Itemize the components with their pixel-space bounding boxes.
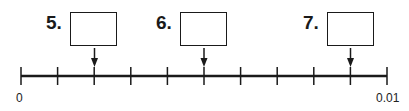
question-label-6: 6. [156,13,172,32]
arrow-down-icon [347,48,354,67]
question-label-7: 7. [303,13,319,32]
question-label-5: 5. [46,13,62,32]
end-label: 0.01 [376,91,399,105]
answer-box-7[interactable] [327,12,374,46]
arrows [91,48,354,67]
arrow-down-icon [91,48,98,67]
start-label: 0 [16,91,23,105]
answer-box-5[interactable] [70,12,117,46]
arrow-down-icon [201,48,208,67]
answer-box-6[interactable] [180,12,227,46]
